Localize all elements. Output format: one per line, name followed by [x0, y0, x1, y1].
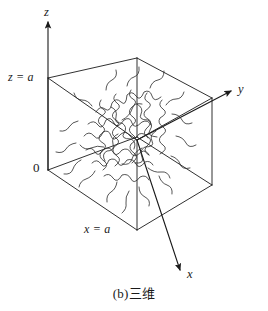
cube-edge-bottom-back-right	[137, 137, 212, 185]
polymer-coil-cluster	[56, 67, 196, 213]
z-axis-label: z	[44, 6, 49, 19]
coil-strand	[96, 91, 161, 112]
coil-strand	[56, 143, 76, 153]
coil-strand	[166, 92, 184, 105]
coil-strand	[144, 93, 151, 155]
x-equals-a-label: x = a	[84, 223, 110, 235]
coil-strand	[122, 191, 129, 213]
cube-edge-bottom-right-front	[137, 185, 212, 230]
coil-strand	[122, 148, 142, 164]
cube-edge-top-front-left	[48, 78, 137, 140]
cube-edge-bottom-left-back	[48, 137, 137, 170]
cube-edge-top-back-right	[137, 58, 212, 98]
coil-strand	[122, 104, 142, 120]
figure-container: z y x z = a x = a 0 (b)三维	[0, 0, 268, 311]
coil-strand	[112, 94, 119, 166]
coil-strand	[107, 182, 117, 202]
coil-strand	[104, 174, 149, 181]
x-axis-label: x	[187, 268, 193, 281]
coil-strand	[98, 100, 106, 170]
three-dimensional-cube-diagram	[0, 0, 268, 311]
z-equals-a-label: z = a	[8, 71, 34, 83]
coil-strand	[159, 176, 172, 194]
cube-edge-bottom-front-left	[48, 170, 137, 230]
coil-strand	[106, 70, 117, 90]
coil-strand	[60, 121, 78, 131]
coil-strand	[150, 71, 164, 88]
coil-strand	[139, 187, 150, 206]
coil-strand	[111, 107, 135, 149]
coil-strand	[74, 93, 92, 106]
coil-strand	[171, 156, 190, 169]
coil-strand	[79, 171, 95, 187]
figure-caption: (b)三维	[0, 283, 268, 302]
x-axis-line	[137, 140, 180, 270]
cube-edge-top-left-back	[48, 58, 137, 78]
coil-strand	[176, 136, 196, 147]
y-axis-line	[137, 91, 231, 140]
y-axis-label: y	[238, 83, 244, 96]
coil-strand	[64, 160, 81, 174]
origin-label: 0	[33, 161, 40, 174]
